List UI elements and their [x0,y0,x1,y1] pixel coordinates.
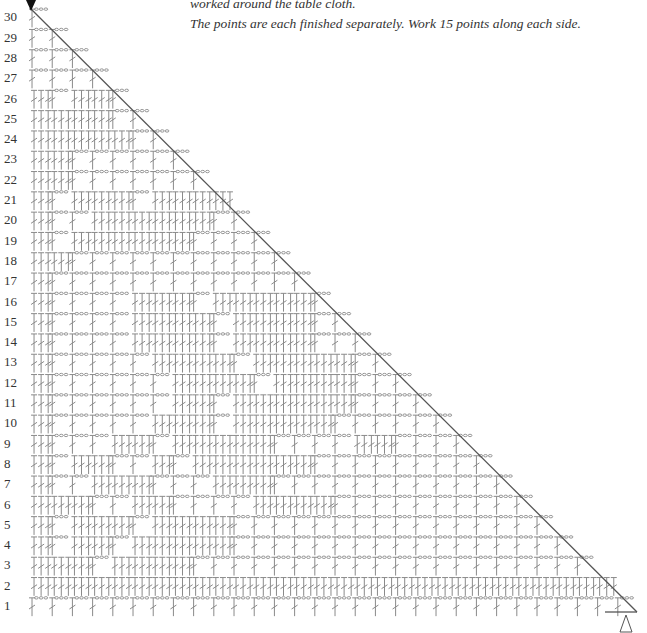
end-marker-icon [620,615,632,632]
diagonal-edge [30,8,637,612]
crochet-chart [0,0,647,633]
